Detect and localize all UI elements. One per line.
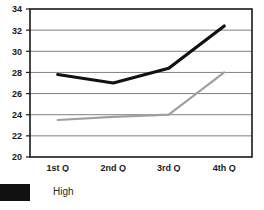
chart-canvas: 2022242628303234 1st Q2nd Q3rd Q4th Q — [0, 0, 264, 172]
y-axis-tick-label: 34 — [12, 4, 22, 14]
legend-label-high: High — [53, 186, 74, 197]
y-axis-tick-label: 20 — [12, 152, 22, 162]
y-axis-tick-labels: 2022242628303234 — [12, 4, 22, 162]
y-axis-tick-label: 22 — [12, 131, 22, 141]
x-axis-tick-label: 4th Q — [213, 163, 236, 172]
x-axis-tick-label: 2nd Q — [100, 163, 126, 172]
y-axis-tick-label: 28 — [12, 68, 22, 78]
y-axis-tick-label: 26 — [12, 89, 22, 99]
y-axis-tick-label: 32 — [12, 26, 22, 36]
x-axis-tick-label: 3rd Q — [157, 163, 181, 172]
legend-swatch-high — [0, 184, 30, 201]
y-axis-tick-label: 24 — [12, 110, 22, 120]
plot-area: 2022242628303234 1st Q2nd Q3rd Q4th Q — [0, 0, 264, 172]
y-axis-tick-label: 30 — [12, 47, 22, 57]
x-axis-tick-labels: 1st Q2nd Q3rd Q4th Q — [46, 163, 235, 172]
chart-legend: High — [0, 184, 264, 210]
x-axis-tick-label: 1st Q — [46, 163, 69, 172]
line-chart: 2022242628303234 1st Q2nd Q3rd Q4th Q Hi… — [0, 0, 264, 210]
